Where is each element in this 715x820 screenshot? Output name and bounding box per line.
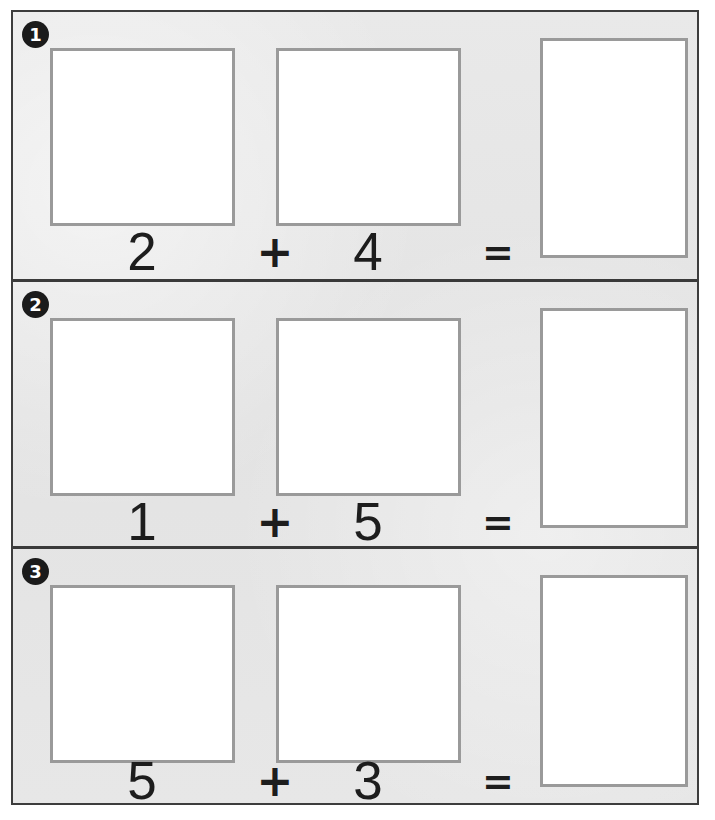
addend-a-digit: 1 (50, 496, 235, 548)
addend-b-picture-box[interactable] (276, 48, 461, 226)
equals-icon: = (453, 755, 543, 807)
problem-row: 3 5 + 3 = (13, 546, 697, 803)
problem-number-badge: 3 (22, 558, 49, 585)
problem-row: 2 1 + 5 = (13, 279, 697, 546)
equals-icon: = (453, 226, 543, 278)
equation-strip: 5 + 3 = (13, 755, 540, 807)
addend-a-picture-box[interactable] (50, 585, 235, 763)
addend-b-digit: 3 (276, 755, 461, 807)
problem-number-badge: 1 (22, 21, 49, 48)
problem-number-badge: 2 (22, 291, 49, 318)
worksheet-frame: 1 2 + 4 = 2 1 + 5 = 3 5 + (11, 10, 699, 805)
answer-box[interactable] (540, 38, 688, 258)
addend-a-digit: 5 (50, 755, 235, 807)
addend-a-picture-box[interactable] (50, 48, 235, 226)
equals-icon: = (453, 496, 543, 548)
addend-b-digit: 5 (276, 496, 461, 548)
addend-b-digit: 4 (276, 226, 461, 278)
equation-strip: 2 + 4 = (13, 226, 540, 278)
addend-b-picture-box[interactable] (276, 318, 461, 496)
answer-box[interactable] (540, 575, 688, 787)
problem-row: 1 2 + 4 = (13, 12, 697, 279)
answer-box[interactable] (540, 308, 688, 528)
equation-strip: 1 + 5 = (13, 496, 540, 548)
addend-a-picture-box[interactable] (50, 318, 235, 496)
addend-a-digit: 2 (50, 226, 235, 278)
addend-b-picture-box[interactable] (276, 585, 461, 763)
